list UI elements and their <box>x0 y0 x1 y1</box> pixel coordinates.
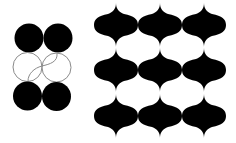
ogee-tile <box>182 94 226 138</box>
ogee-tile <box>182 3 226 47</box>
ogee-tile-pattern <box>94 3 226 138</box>
filled-circle <box>42 82 71 111</box>
pattern-canvas <box>0 0 236 143</box>
ogee-tile <box>138 48 182 92</box>
ogee-tile <box>94 48 138 92</box>
ogee-tile <box>138 94 182 138</box>
ogee-tile <box>94 94 138 138</box>
ogee-tile <box>138 3 182 47</box>
filled-circle <box>44 24 73 53</box>
filled-circle <box>15 24 44 53</box>
filled-circle <box>13 82 42 111</box>
circle-grid-figure <box>13 24 73 112</box>
ogee-tile <box>94 3 138 47</box>
s-curve-line <box>28 53 57 81</box>
ogee-tile <box>182 48 226 92</box>
